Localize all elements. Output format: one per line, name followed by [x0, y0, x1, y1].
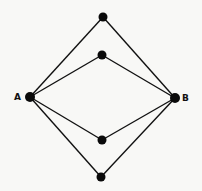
edge-A-n2 — [30, 55, 102, 97]
node-label-a: A — [14, 92, 21, 102]
node-n1 — [99, 13, 108, 22]
graph-svg — [0, 0, 202, 191]
node-A — [25, 92, 35, 102]
edge-A-n4 — [30, 97, 101, 177]
edge-n4-B — [101, 98, 175, 177]
node-n2 — [98, 51, 107, 60]
node-label-b: B — [182, 93, 189, 103]
edge-n1-B — [103, 17, 175, 98]
edge-A-n3 — [30, 97, 102, 140]
node-B — [170, 93, 180, 103]
graph-diagram: A B — [0, 0, 202, 191]
edge-n2-B — [102, 55, 175, 98]
node-n3 — [98, 136, 107, 145]
edge-A-n1 — [30, 17, 103, 97]
node-n4 — [97, 173, 106, 182]
edge-n3-B — [102, 98, 175, 140]
